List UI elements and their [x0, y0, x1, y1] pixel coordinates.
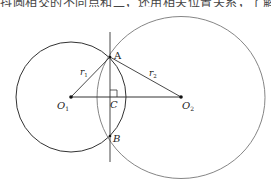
label-o1: O1 [57, 100, 69, 112]
label-r1: r1 [80, 67, 88, 78]
point-b [109, 135, 112, 138]
label-a: A [113, 50, 122, 61]
radius-r2-line [110, 57, 181, 97]
point-a [109, 56, 112, 59]
two-circles-diagram: A B C O1 O2 r1 r2 [0, 0, 271, 188]
point-o1 [69, 95, 73, 99]
right-angle-marker [110, 90, 117, 97]
label-b: B [112, 133, 120, 144]
label-c: C [110, 99, 118, 110]
label-r2: r2 [149, 68, 157, 79]
label-o2: O2 [182, 100, 194, 112]
point-o2 [179, 95, 183, 99]
radius-r1-line [71, 57, 110, 97]
